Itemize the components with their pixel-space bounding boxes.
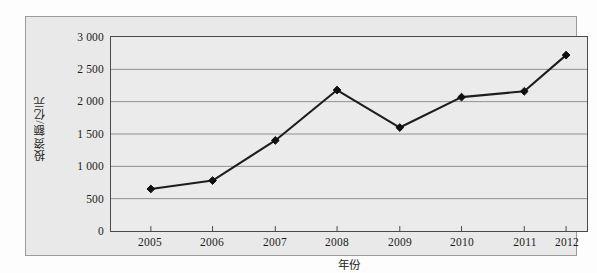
x-tick-label-2006: 2006 — [200, 237, 224, 249]
y-tick-label-0: 0 — [98, 226, 104, 238]
x-axis-tick-labels: 2005 2006 2007 2008 2009 2010 2011 2012 — [110, 237, 588, 255]
x-tick-label-2010: 2010 — [450, 237, 474, 249]
y-tick-label-2000: 2 000 — [77, 96, 104, 108]
x-tick-label-2005: 2005 — [138, 237, 162, 249]
plot-area — [110, 36, 588, 232]
x-tick-label-2008: 2008 — [325, 237, 349, 249]
data-point-markers — [147, 51, 570, 193]
y-tick-label-500: 500 — [86, 194, 104, 206]
chart-figure: 3 000 2 500 2 000 1 500 1 000 500 0 投资额/… — [0, 0, 597, 273]
x-axis-title: 年份 — [110, 256, 588, 272]
x-tick-label-2012: 2012 — [555, 237, 579, 249]
chart-plot-svg — [111, 37, 587, 231]
gridlines — [111, 69, 587, 198]
x-tick-label-2007: 2007 — [263, 237, 287, 249]
x-axis-ticks — [151, 226, 566, 231]
data-point-2010 — [458, 93, 466, 101]
y-tick-label-1000: 1 000 — [77, 161, 104, 173]
x-tick-label-2009: 2009 — [388, 237, 412, 249]
y-tick-label-3000: 3 000 — [77, 32, 104, 44]
data-series-line — [151, 55, 566, 189]
chart-frame: 3 000 2 500 2 000 1 500 1 000 500 0 投资额/… — [25, 16, 577, 256]
y-axis-tick-labels: 3 000 2 500 2 000 1 500 1 000 500 0 — [40, 17, 104, 257]
y-tick-label-1500: 1 500 — [77, 129, 104, 141]
y-tick-label-2500: 2 500 — [77, 64, 104, 76]
data-point-2005 — [147, 185, 155, 193]
x-tick-label-2011: 2011 — [513, 237, 536, 249]
y-axis-title: 投资额/亿元 — [32, 95, 48, 161]
